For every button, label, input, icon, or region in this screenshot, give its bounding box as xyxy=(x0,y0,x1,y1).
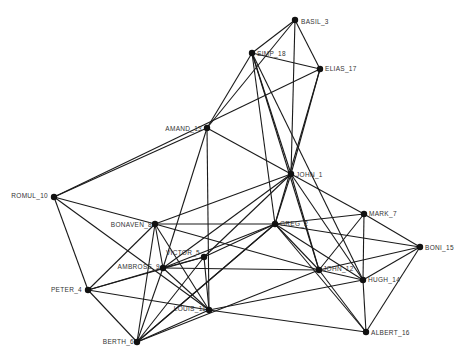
edge-boni_15-albert_16 xyxy=(366,247,420,332)
node-mark_7 xyxy=(361,211,367,217)
node-ambrose_9 xyxy=(160,265,166,271)
node-boni_15 xyxy=(417,244,423,250)
node-amand_13 xyxy=(204,125,210,131)
edge-greg_2-boni_15 xyxy=(275,224,420,247)
edge-basil_3-elias_17 xyxy=(295,20,320,69)
node-john_12 xyxy=(316,267,322,273)
edge-louis_11-albert_16 xyxy=(209,310,366,332)
edge-bonaven_8-berth_6 xyxy=(137,224,155,342)
edge-basil_3-john_1 xyxy=(291,20,295,174)
node-victor_5 xyxy=(201,254,207,260)
node-bonaven_8 xyxy=(152,221,158,227)
node-label-louis_11: LOUIS_11 xyxy=(174,305,206,313)
node-label-amand_13: AMAND_13 xyxy=(165,125,202,133)
network-graph-svg: BASIL_3SIMP_18ELIAS_17AMAND_13JOHN_1ROMU… xyxy=(0,0,465,357)
node-label-ambrose_9: AMBROSE_9 xyxy=(118,263,161,271)
node-elias_17 xyxy=(317,66,323,72)
edge-simp_18-amand_13 xyxy=(207,53,252,128)
edge-layer xyxy=(54,20,420,342)
edge-hugh_14-louis_11 xyxy=(209,280,363,310)
network-diagram: BASIL_3SIMP_18ELIAS_17AMAND_13JOHN_1ROMU… xyxy=(0,0,465,357)
label-layer: BASIL_3SIMP_18ELIAS_17AMAND_13JOHN_1ROMU… xyxy=(11,18,454,346)
node-label-victor_5: VICTOR_5 xyxy=(166,249,200,257)
node-label-john_1: JOHN_1 xyxy=(296,171,323,179)
node-label-basil_3: BASIL_3 xyxy=(301,18,329,26)
edge-ambrose_9-john_12 xyxy=(163,268,319,270)
node-label-peter_4: PETER_4 xyxy=(51,286,82,294)
node-albert_16 xyxy=(363,329,369,335)
node-label-berth_6: BERTH_6 xyxy=(103,338,134,346)
node-label-mark_7: MARK_7 xyxy=(369,210,397,218)
node-louis_11 xyxy=(206,307,212,313)
edge-romul_10-bonaven_8 xyxy=(54,197,155,224)
node-label-romul_10: ROMUL_10 xyxy=(11,192,48,200)
node-layer xyxy=(51,17,423,345)
node-label-john_12: JOHN_12 xyxy=(323,265,354,273)
node-label-bonaven_8: BONAVEN_8 xyxy=(111,221,152,229)
node-label-albert_16: ALBERT_16 xyxy=(371,329,410,337)
node-label-boni_15: BONI_15 xyxy=(425,244,454,252)
edge-basil_3-amand_13 xyxy=(207,20,295,128)
edge-john_1-bonaven_8 xyxy=(155,174,291,224)
node-label-elias_17: ELIAS_17 xyxy=(325,65,357,73)
edge-louis_11-berth_6 xyxy=(137,310,209,342)
node-hugh_14 xyxy=(360,277,366,283)
node-label-hugh_14: HUGH_14 xyxy=(368,276,400,284)
node-greg_2 xyxy=(272,221,278,227)
node-romul_10 xyxy=(51,194,57,200)
edge-amand_13-romul_10 xyxy=(54,128,207,197)
edge-basil_3-simp_18 xyxy=(252,20,295,53)
node-basil_3 xyxy=(292,17,298,23)
node-label-simp_18: SIMP_18 xyxy=(257,50,286,58)
node-simp_18 xyxy=(249,50,255,56)
edge-simp_18-hugh_14 xyxy=(252,53,363,280)
node-peter_4 xyxy=(85,287,91,293)
edge-amand_13-louis_11 xyxy=(207,128,209,310)
edge-hugh_14-albert_16 xyxy=(363,280,366,332)
node-berth_6 xyxy=(134,339,140,345)
edge-romul_10-peter_4 xyxy=(54,197,88,290)
node-label-greg_2: GREG_2 xyxy=(280,220,308,228)
node-john_1 xyxy=(288,171,294,177)
edge-mark_7-hugh_14 xyxy=(363,214,364,280)
edge-peter_4-berth_6 xyxy=(88,290,137,342)
edge-simp_18-greg_2 xyxy=(252,53,275,224)
